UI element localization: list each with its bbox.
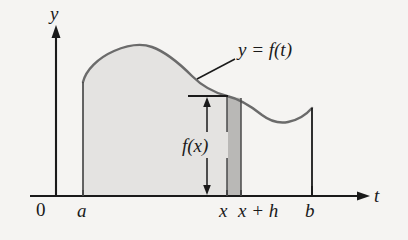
tick-label-x-plus-h: x + h: [238, 201, 278, 220]
area-under-curve-shaded-region: [83, 45, 227, 196]
origin-label: 0: [36, 200, 46, 219]
y-axis-label: y: [50, 4, 58, 23]
figure-canvas: [0, 0, 408, 240]
fundamental-theorem-of-calculus-figure: y t 0 a x x + h b f(x) y = f(t): [0, 0, 408, 240]
tick-label-a: a: [77, 201, 87, 220]
tick-label-x: x: [219, 201, 227, 220]
t-axis-arrowhead-icon: [357, 192, 370, 201]
tick-label-b: b: [305, 201, 315, 220]
curve-equation-label: y = f(t): [238, 40, 292, 59]
t-axis-label: t: [374, 186, 379, 205]
y-axis-arrowhead-icon: [52, 25, 61, 38]
curve-label-leader-line: [197, 59, 235, 79]
strip-x-to-x-plus-h-shaded-region: [227, 96, 241, 196]
height-label-fx: f(x): [182, 136, 208, 155]
